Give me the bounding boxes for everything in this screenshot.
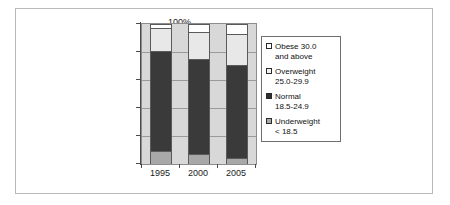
plot-area bbox=[141, 23, 257, 165]
legend-item-label: Underweight< 18.5 bbox=[275, 117, 320, 136]
x-axis-tick-mark bbox=[255, 164, 256, 168]
bar-segment bbox=[226, 34, 248, 65]
bar-segment bbox=[226, 24, 248, 34]
bar-segment bbox=[188, 32, 210, 59]
legend-item-label: Overweight25.0-29.9 bbox=[275, 67, 315, 86]
legend-item-label: Normal18.5-24.9 bbox=[275, 92, 309, 111]
x-axis-tick-mark bbox=[179, 164, 180, 168]
legend-label-line1: Normal bbox=[275, 92, 301, 101]
chart-legend: Obese 30.0and aboveOverweight25.0-29.9No… bbox=[261, 36, 341, 142]
x-axis-tick-mark bbox=[141, 164, 142, 168]
legend-label-line2: 18.5-24.9 bbox=[275, 102, 309, 111]
legend-label-line1: Obese 30.0 bbox=[275, 42, 316, 51]
bar-segment bbox=[226, 65, 248, 159]
stacked-bar bbox=[150, 24, 172, 164]
legend-label-line1: Underweight bbox=[275, 117, 320, 126]
legend-item-label: Obese 30.0and above bbox=[275, 42, 316, 61]
bar-segment bbox=[150, 28, 172, 50]
stacked-bar bbox=[226, 24, 248, 164]
legend-swatch-light-gray bbox=[266, 68, 272, 74]
legend-label-line2: and above bbox=[275, 52, 312, 61]
stacked-bar bbox=[188, 24, 210, 164]
bar-segment bbox=[188, 24, 210, 32]
chart-figure: 0%20%40%60%80%100% 199520002005 Obese 30… bbox=[0, 0, 450, 205]
bar-segment bbox=[188, 154, 210, 164]
legend-item: Underweight< 18.5 bbox=[266, 117, 336, 136]
x-axis-tick-label: 2000 bbox=[178, 168, 218, 178]
legend-item: Overweight25.0-29.9 bbox=[266, 67, 336, 86]
legend-swatch-gray bbox=[266, 118, 272, 124]
legend-label-line2: 25.0-29.9 bbox=[275, 77, 309, 86]
legend-label-line1: Overweight bbox=[275, 67, 315, 76]
legend-item: Obese 30.0and above bbox=[266, 42, 336, 61]
legend-swatch-black bbox=[266, 93, 272, 99]
legend-item-list: Obese 30.0and aboveOverweight25.0-29.9No… bbox=[266, 42, 336, 136]
x-axis-tick-mark bbox=[217, 164, 218, 168]
bar-segment bbox=[150, 151, 172, 164]
bar-segment bbox=[226, 158, 248, 164]
legend-label-line2: < 18.5 bbox=[275, 127, 297, 136]
bar-segment bbox=[188, 59, 210, 154]
legend-item: Normal18.5-24.9 bbox=[266, 92, 336, 111]
bar-segment bbox=[150, 51, 172, 152]
x-axis-tick-label: 2005 bbox=[216, 168, 256, 178]
x-axis-tick-label: 1995 bbox=[140, 168, 180, 178]
legend-swatch-white bbox=[266, 43, 272, 49]
